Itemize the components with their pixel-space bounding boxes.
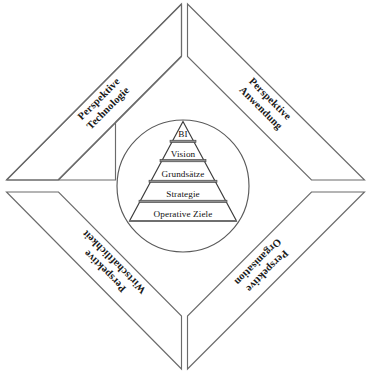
pyramid-level-bi[interactable]: BI — [178, 129, 187, 139]
perspectives-diagram: Perspektive Technologie Perspektive Anwe… — [0, 0, 371, 373]
pyramid-divider-3 — [149, 180, 217, 182]
diagram-root: Perspektive Technologie Perspektive Anwe… — [0, 0, 371, 373]
quadrant-label-wirtschaftlichkeit: Perspektive Wirtschaftlichkeit — [71, 228, 148, 305]
quadrant-inner-edge-technologie — [7, 4, 182, 180]
quadrant-shape-wirtschaftlichkeit[interactable] — [7, 192, 182, 369]
quadrant-label-technologie: Perspektive Technologie — [75, 75, 131, 131]
pyramid-divider-1 — [170, 140, 196, 142]
pyramid-level-vision[interactable]: Vision — [171, 149, 196, 159]
pyramid-divider-4 — [139, 200, 227, 202]
quadrant-label-anwendung: Perspektive Anwendung — [237, 75, 294, 132]
pyramid-level-operative-ziele[interactable]: Operative Ziele — [154, 209, 213, 219]
quadrant-label-organisation: Perspektive Organisation — [233, 237, 293, 297]
pyramid-divider-2 — [160, 159, 206, 161]
pyramid-level-grundsaetze[interactable]: Grundsätze — [162, 169, 205, 179]
quadrant-shape-organisation[interactable] — [188, 192, 365, 369]
center-circle — [117, 120, 249, 252]
pyramid-level-strategie[interactable]: Strategie — [166, 189, 200, 199]
quadrant-shape-anwendung[interactable] — [188, 4, 365, 180]
outer-diamond-quadrants — [7, 4, 365, 369]
goal-pyramid: BI Vision Grundsätze Strategie Operative… — [129, 122, 237, 222]
